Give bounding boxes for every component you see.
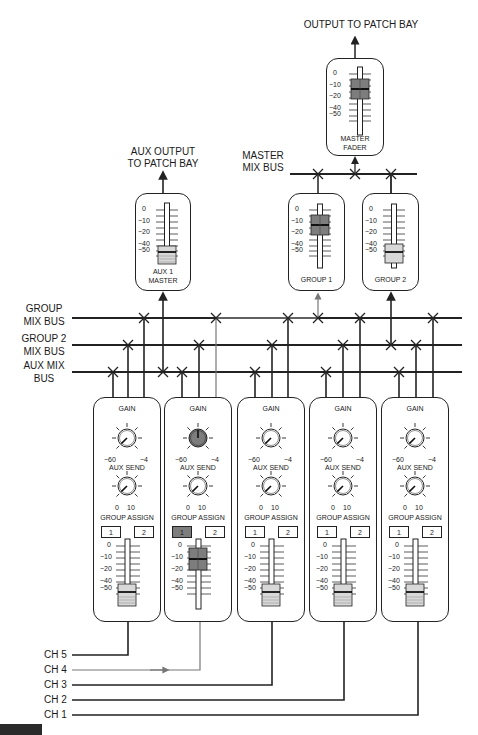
scale-0: 0 bbox=[369, 205, 373, 213]
scale-0: 0 bbox=[107, 541, 111, 549]
scale-minus50: −50 bbox=[244, 584, 256, 592]
scale-minus10: −10 bbox=[138, 217, 150, 225]
group-assign-2-button[interactable]: 2 bbox=[422, 526, 442, 538]
scale-minus20: −20 bbox=[291, 228, 303, 236]
master-fader-label-2: FADER bbox=[327, 144, 383, 151]
channel-strip: GAIN −60 −4 AUX SEND 0 10 GROUP ASSIGN 1… bbox=[237, 397, 305, 622]
gain-min-label: −60 bbox=[104, 456, 116, 463]
aux-mix-bus-label-1: AUX MIX bbox=[14, 360, 74, 372]
scale-minus50: −50 bbox=[388, 584, 400, 592]
gain-min-label: −60 bbox=[320, 456, 332, 463]
group2-label: GROUP 2 bbox=[363, 276, 418, 283]
aux-min-label: 0 bbox=[186, 504, 190, 511]
group-mix-bus-label-1: GROUP bbox=[14, 303, 74, 315]
group-assign-2-button[interactable]: 2 bbox=[205, 526, 225, 538]
scale-minus10: −10 bbox=[329, 81, 341, 89]
aux-output-label-1: AUX OUTPUT bbox=[120, 146, 206, 158]
scale-minus10: −10 bbox=[171, 553, 183, 561]
ch4-label: CH 4 bbox=[44, 664, 67, 676]
group-assign-1-button[interactable]: 1 bbox=[172, 526, 192, 538]
scale-minus20: −20 bbox=[329, 92, 341, 100]
scale-0: 0 bbox=[142, 205, 146, 213]
channel-strip: GAIN −60 −4 AUX SEND 0 10 GROUP ASSIGN 1… bbox=[93, 397, 161, 622]
aux-output-label-2: TO PATCH BAY bbox=[120, 158, 206, 170]
channel-strip: GAIN −60 −4 AUX SEND 0 10 GROUP ASSIGN 1… bbox=[381, 397, 449, 622]
scale-minus10: −10 bbox=[244, 553, 256, 561]
gain-min-label: −60 bbox=[248, 456, 260, 463]
master-fader-module: 0 −10 −20 −40 −50 MASTER FADER bbox=[326, 58, 384, 156]
group-assign-label: GROUP ASSIGN bbox=[238, 514, 304, 521]
aux-send-label: AUX SEND bbox=[310, 464, 376, 471]
group-assign-2-button[interactable]: 2 bbox=[350, 526, 370, 538]
aux1-master-label-2: MASTER bbox=[136, 277, 190, 284]
scale-0: 0 bbox=[323, 541, 327, 549]
gain-label: GAIN bbox=[238, 405, 304, 412]
group-mix-bus-label-2: MIX BUS bbox=[14, 316, 74, 328]
aux-max-label: 10 bbox=[271, 504, 279, 511]
scale-minus50: −50 bbox=[329, 110, 341, 118]
scale-minus20: −20 bbox=[316, 565, 328, 573]
aux-send-label: AUX SEND bbox=[165, 464, 231, 471]
group-assign-label: GROUP ASSIGN bbox=[94, 514, 160, 521]
gain-label: GAIN bbox=[310, 405, 376, 412]
scale-minus10: −10 bbox=[365, 217, 377, 225]
gain-max-label: −4 bbox=[356, 456, 364, 463]
aux-min-label: 0 bbox=[115, 504, 119, 511]
scale-minus50: −50 bbox=[138, 246, 150, 254]
group-assign-1-button[interactable]: 1 bbox=[389, 526, 409, 538]
group-assign-2-button[interactable]: 2 bbox=[278, 526, 298, 538]
aux-send-label: AUX SEND bbox=[382, 464, 448, 471]
scale-minus20: −20 bbox=[388, 565, 400, 573]
group2-mix-bus-label-2: MIX BUS bbox=[14, 346, 74, 358]
group-assign-2-button[interactable]: 2 bbox=[134, 526, 154, 538]
aux-mix-bus-label-2: BUS bbox=[14, 373, 74, 385]
gain-max-label: −4 bbox=[428, 456, 436, 463]
scale-minus50: −50 bbox=[171, 584, 183, 592]
scale-0: 0 bbox=[251, 541, 255, 549]
gain-max-label: −4 bbox=[140, 456, 148, 463]
aux-min-label: 0 bbox=[331, 504, 335, 511]
group2-mix-bus-label-1: GROUP 2 bbox=[14, 333, 74, 345]
scale-minus20: −20 bbox=[138, 228, 150, 236]
channel-strip: GAIN −60 −4 AUX SEND 0 10 GROUP ASSIGN 1… bbox=[164, 397, 232, 622]
scale-minus20: −20 bbox=[365, 228, 377, 236]
ch1-label: CH 1 bbox=[44, 709, 67, 721]
scale-minus50: −50 bbox=[365, 246, 377, 254]
gain-max-label: −4 bbox=[284, 456, 292, 463]
scale-minus50: −50 bbox=[316, 584, 328, 592]
scale-minus10: −10 bbox=[388, 553, 400, 561]
gain-label: GAIN bbox=[382, 405, 448, 412]
ch3-label: CH 3 bbox=[44, 679, 67, 691]
aux-min-label: 0 bbox=[259, 504, 263, 511]
scale-minus10: −10 bbox=[316, 553, 328, 561]
scale-minus10: −10 bbox=[291, 217, 303, 225]
master-fader-label-1: MASTER bbox=[327, 135, 383, 142]
aux-min-label: 0 bbox=[403, 504, 407, 511]
group1-label: GROUP 1 bbox=[289, 276, 344, 283]
scale-0: 0 bbox=[333, 69, 337, 77]
group2-module: 0 −10 −20 −40 −50 GROUP 2 bbox=[362, 193, 419, 291]
group-assign-label: GROUP ASSIGN bbox=[382, 514, 448, 521]
scale-minus50: −50 bbox=[291, 246, 303, 254]
scale-minus20: −20 bbox=[171, 565, 183, 573]
group-assign-label: GROUP ASSIGN bbox=[165, 514, 231, 521]
ch2-label: CH 2 bbox=[44, 694, 67, 706]
scale-0: 0 bbox=[395, 541, 399, 549]
aux-max-label: 10 bbox=[127, 504, 135, 511]
aux-max-label: 10 bbox=[415, 504, 423, 511]
scale-minus10: −10 bbox=[100, 553, 112, 561]
group-assign-label: GROUP ASSIGN bbox=[310, 514, 376, 521]
scale-0: 0 bbox=[178, 541, 182, 549]
group1-module: 0 −10 −20 −40 −50 GROUP 1 bbox=[288, 193, 345, 291]
group-assign-1-button[interactable]: 1 bbox=[101, 526, 121, 538]
gain-label: GAIN bbox=[165, 405, 231, 412]
aux-max-label: 10 bbox=[343, 504, 351, 511]
gain-label: GAIN bbox=[94, 405, 160, 412]
group-assign-1-button[interactable]: 1 bbox=[245, 526, 265, 538]
scale-minus50: −50 bbox=[100, 584, 112, 592]
aux-send-label: AUX SEND bbox=[94, 464, 160, 471]
aux-send-label: AUX SEND bbox=[238, 464, 304, 471]
master-mix-bus-label-1: MASTER bbox=[238, 150, 288, 162]
group-assign-1-button[interactable]: 1 bbox=[317, 526, 337, 538]
scale-0: 0 bbox=[295, 205, 299, 213]
